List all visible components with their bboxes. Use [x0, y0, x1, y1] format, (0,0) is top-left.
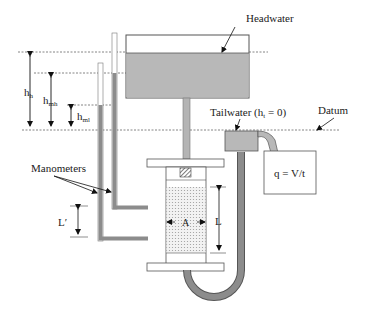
length-label: L [215, 215, 222, 227]
tailwater-pointer-arrow [236, 119, 240, 130]
headwater-tank [126, 35, 249, 98]
manometers-label: Manometers [31, 162, 86, 174]
head-dimension-arrows [30, 56, 71, 126]
headwater-label: Headwater [246, 12, 294, 24]
tailwater-label: Tailwater (ht = 0) [210, 106, 286, 120]
h-mh-label: hmh [43, 94, 58, 108]
datum-label: Datum [318, 104, 348, 116]
h-h-label: hh [24, 86, 34, 100]
headwater-water [127, 53, 249, 98]
porous-stone [180, 168, 191, 177]
h-ml-label: hml [77, 110, 90, 124]
top-plate [147, 159, 224, 167]
area-label: A [182, 217, 190, 228]
permeameter-diagram: hh hmh hml Headwater Manometers L′ A [0, 0, 365, 311]
permeameter-column [147, 159, 224, 271]
bottom-plate [147, 263, 224, 271]
datum-pointer-arrow [317, 118, 334, 130]
manometer-pointer-arrow-1 [54, 176, 97, 193]
l-prime-label: L′ [58, 216, 67, 228]
overflow-spout [258, 131, 278, 153]
tailwater-box [225, 131, 258, 151]
flow-formula-label: q = V/t [274, 167, 305, 179]
supply-pipe [183, 98, 190, 159]
manometer-lower-tube [101, 105, 149, 239]
